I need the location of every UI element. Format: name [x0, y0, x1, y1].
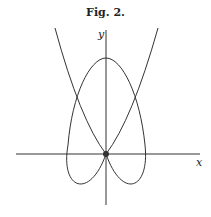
y-axis-label: y: [97, 28, 105, 41]
origin-point: [103, 151, 109, 157]
figure-plot: y x: [0, 0, 211, 217]
x-axis-label: x: [196, 156, 203, 169]
